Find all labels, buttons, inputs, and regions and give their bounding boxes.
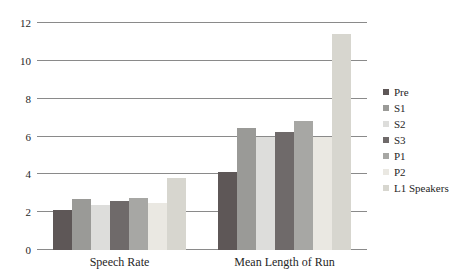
bar-groups xyxy=(37,23,367,250)
x-axis-category-labels: Speech RateMean Length of Run xyxy=(37,255,367,270)
bar-s2-speech-rate xyxy=(91,205,110,250)
y-tick-label: 6 xyxy=(0,130,31,144)
legend-label: P1 xyxy=(394,150,406,162)
legend-label: Pre xyxy=(394,86,409,98)
legend-label: S1 xyxy=(394,102,406,114)
legend-marker-icon xyxy=(383,137,389,143)
legend-marker-icon xyxy=(383,153,389,159)
bar-s1-mean-length-of-run xyxy=(237,128,256,250)
y-tick-label: 8 xyxy=(0,92,31,106)
y-tick-label: 12 xyxy=(0,16,31,30)
bar-p2-mean-length-of-run xyxy=(313,137,332,251)
bar-l1-speakers-mean-length-of-run xyxy=(332,34,351,250)
legend-label: S3 xyxy=(394,134,406,146)
legend-label: S2 xyxy=(394,118,406,130)
legend-item-p1: P1 xyxy=(383,148,449,164)
legend-item-l1-speakers: L1 Speakers xyxy=(383,180,449,196)
x-axis-label-mean-length-of-run: Mean Length of Run xyxy=(202,255,367,270)
bar-l1-speakers-speech-rate xyxy=(167,178,186,250)
legend-item-p2: P2 xyxy=(383,164,449,180)
legend-item-s3: S3 xyxy=(383,132,449,148)
legend-marker-icon xyxy=(383,185,389,191)
plot-area xyxy=(37,23,367,250)
bar-pre-speech-rate xyxy=(53,210,72,250)
legend-item-s1: S1 xyxy=(383,100,449,116)
bar-group-mean-length-of-run xyxy=(202,23,367,250)
bar-s3-mean-length-of-run xyxy=(275,132,294,250)
legend-item-pre: Pre xyxy=(383,84,449,100)
y-tick-label: 0 xyxy=(0,243,31,257)
legend-label: P2 xyxy=(394,166,406,178)
y-tick-label: 4 xyxy=(0,167,31,181)
y-axis-tick-labels: 024681012 xyxy=(0,23,31,250)
y-tick-label: 2 xyxy=(0,205,31,219)
x-axis-label-speech-rate: Speech Rate xyxy=(37,255,202,270)
bar-pre-mean-length-of-run xyxy=(218,172,237,250)
bar-p1-mean-length-of-run xyxy=(294,121,313,250)
bar-group-speech-rate xyxy=(37,23,202,250)
legend: PreS1S2S3P1P2L1 Speakers xyxy=(383,84,449,196)
bar-chart: 024681012 Speech RateMean Length of Run … xyxy=(0,0,458,278)
legend-marker-icon xyxy=(383,105,389,111)
legend-marker-icon xyxy=(383,89,389,95)
legend-marker-icon xyxy=(383,121,389,127)
legend-label: L1 Speakers xyxy=(394,182,449,194)
bar-s2-mean-length-of-run xyxy=(256,137,275,251)
y-tick-label: 10 xyxy=(0,54,31,68)
legend-marker-icon xyxy=(383,169,389,175)
legend-item-s2: S2 xyxy=(383,116,449,132)
bar-p1-speech-rate xyxy=(129,198,148,250)
bar-p2-speech-rate xyxy=(148,203,167,250)
bar-s1-speech-rate xyxy=(72,199,91,250)
bar-s3-speech-rate xyxy=(110,201,129,250)
